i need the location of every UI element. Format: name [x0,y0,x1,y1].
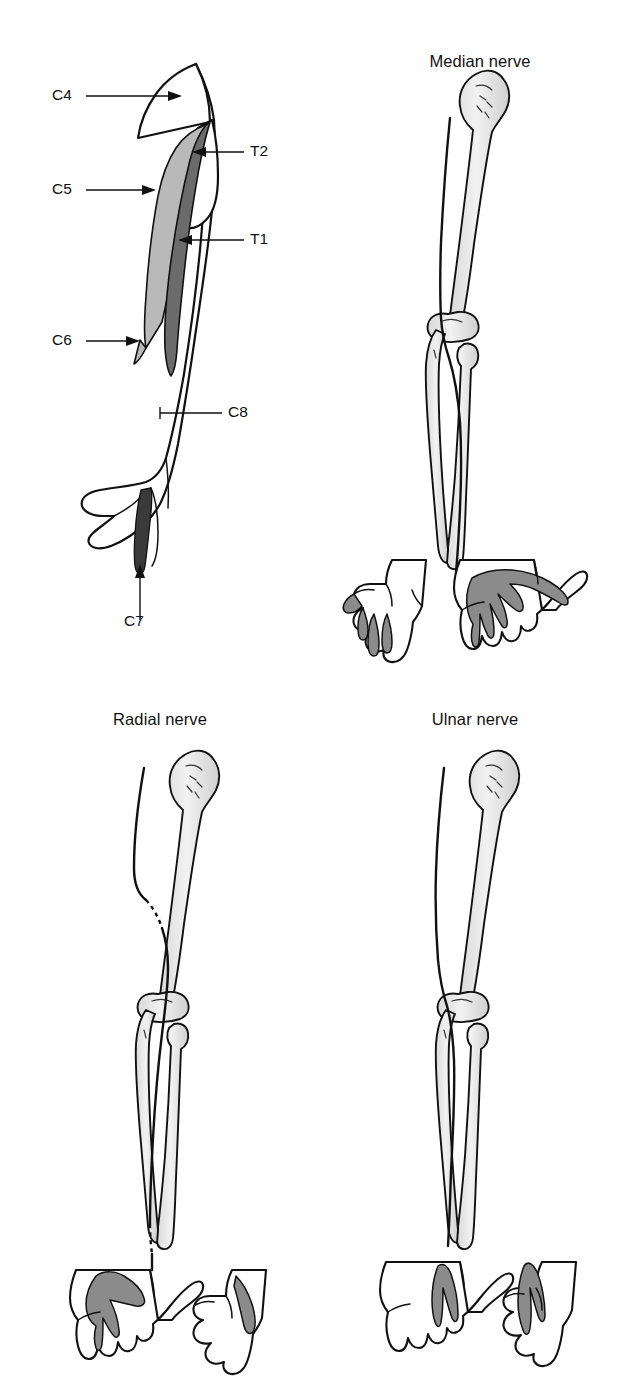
dermatome-label-c4: C4 [52,86,72,104]
ulna-bone [436,1010,458,1243]
hand-dorsal-radial [70,1270,203,1359]
ulnar-nerve-title: Ulnar nerve [320,710,630,729]
humerus-bone [450,71,509,318]
hand-dorsal-median [343,560,426,662]
hand-palmar-ulnar [503,1262,576,1366]
radius-bone [447,343,478,569]
ulna-bone [426,330,448,563]
median-nerve-drawing [330,62,630,682]
radius-bone [457,1023,488,1249]
humerus-bone [460,751,519,998]
panel-median-nerve: Median nerve [330,0,630,690]
radial-nerve-drawing [0,742,320,1381]
panel-ulnar-nerve: Ulnar nerve [320,690,630,1381]
dermatome-label-c6: C6 [52,331,72,349]
panel-radial-nerve: Radial nerve [0,690,320,1381]
radius-bone [157,1023,188,1249]
hand-palmar-radial [193,1270,266,1374]
dermatome-label-c7: C7 [124,612,144,630]
panel-dermatomes: C4 C5 C6 C7 C8 T1 T2 [0,0,320,690]
dermatome-label-c8: C8 [228,403,248,421]
ulnar-nerve-drawing [320,742,630,1381]
hand-dorsal-ulnar [380,1262,513,1351]
dermatome-label-c5: C5 [52,180,72,198]
hand-palmar-median [454,560,587,649]
dermatome-label-t1: T1 [250,230,268,248]
dermatome-label-t2: T2 [250,142,268,160]
anatomy-figure: C4 C5 C6 C7 C8 T1 T2 Median nerve [0,0,630,1381]
radial-nerve-title: Radial nerve [0,710,320,729]
dermatome-drawing [0,0,320,690]
